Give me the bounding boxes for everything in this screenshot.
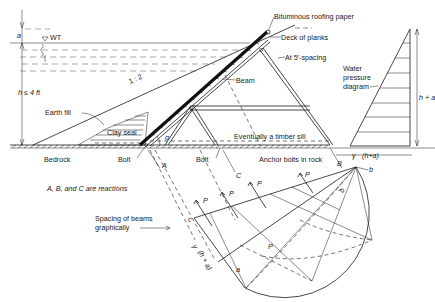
bedrock-label: Bedrock [44, 155, 71, 164]
a-label: a [17, 31, 21, 40]
gamma-expr-label: (h+a) [362, 151, 379, 160]
beam-label: Beam [236, 76, 255, 85]
beam-spacing-construction: P P P P c a b γ (h + a) P P [188, 145, 373, 297]
deck-and-beam [140, 30, 270, 146]
sill-label: Eventually a timber sill [234, 132, 306, 141]
gamma-side-expr-label: (h + a) [196, 249, 214, 272]
water-pressure-label-2: pressure [343, 73, 371, 82]
wt-label: WT [50, 33, 62, 42]
h-plus-a-label: h + a [419, 93, 435, 102]
spacing-graph-label-1: Spacing of beams [95, 214, 153, 223]
reactions-note: A, B, and C are reactions [46, 184, 128, 193]
p-label-2: P [229, 189, 234, 198]
half-p-label: P [268, 242, 273, 251]
base-labels: Bolt Bolt Anchor bolts in rock A C B A, … [46, 148, 342, 232]
spacing-graph-label-2: graphically [95, 223, 130, 232]
clay-seal: Clay seal [78, 112, 148, 145]
water-pressure-label-3: diagram [343, 82, 369, 91]
bituminous-label: Bituminous roofing paper [274, 12, 355, 21]
water-pressure-diagram: h + a Water pressure diagram γ (h+a) [336, 29, 435, 160]
a-point-label: a [236, 265, 240, 274]
p-label-1: P [203, 196, 208, 205]
bolt-left-label: Bolt [118, 155, 130, 164]
water-table-symbol: WT [41, 33, 62, 62]
timber-dam-diagram: a h ≤ 4 ft WT Bedrock 1 : 2 Earth fill [0, 0, 435, 302]
p-label-4: P [305, 170, 310, 179]
deck-label: Deck of planks [281, 33, 329, 42]
structure-labels: Bituminous roofing paper Deck of planks … [222, 12, 355, 141]
slope-label: 1 : 2 [127, 72, 143, 86]
water-pressure-label-1: Water [343, 64, 363, 73]
reaction-b-label: B [337, 159, 342, 168]
gamma-label: γ [352, 151, 356, 160]
c-point-label: c [188, 215, 192, 224]
gamma-side-label: γ [190, 243, 200, 251]
alpha-label: α [165, 133, 170, 142]
anchor-label: Anchor bolts in rock [259, 155, 323, 164]
spacing-label: At 5′-spacing [285, 53, 326, 62]
earth-fill-label: Earth fill [45, 108, 71, 117]
p-label-3: P [257, 179, 262, 188]
clay-seal-label: Clay seal [107, 128, 137, 137]
left-dimensions: a h ≤ 4 ft [17, 10, 41, 145]
b-point-label: b [369, 165, 373, 174]
h-limit-label: h ≤ 4 ft [18, 88, 41, 97]
